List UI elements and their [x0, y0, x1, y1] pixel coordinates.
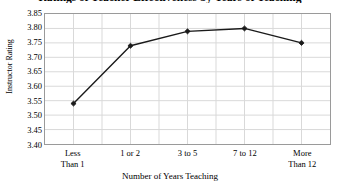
y-axis-tick-label: 3.65 — [14, 67, 42, 76]
chart-title: Ratings of Teacher Effectiveness by Year… — [0, 0, 340, 3]
y-axis-tick-label: 3.80 — [14, 23, 42, 32]
y-axis-tick-label: 3.55 — [14, 97, 42, 106]
data-point-marker — [299, 40, 304, 45]
y-axis-tick-label: 3.75 — [14, 38, 42, 47]
line-chart: Ratings of Teacher Effectiveness by Year… — [0, 0, 340, 187]
x-axis-tick-label: 3 to 5 — [155, 148, 221, 159]
y-axis-tick-label: 3.60 — [14, 82, 42, 91]
y-axis-title: Instructor Rating — [5, 27, 14, 107]
y-axis-tick-label: 3.45 — [14, 126, 42, 135]
y-axis-tick-label: 3.70 — [14, 53, 42, 62]
y-axis-tick-label: 3.40 — [14, 141, 42, 150]
plot-area — [44, 13, 331, 145]
data-point-marker — [185, 29, 190, 34]
x-axis-tick-label: 1 or 2 — [97, 148, 163, 159]
x-axis-tick-label: 7 to 12 — [212, 148, 278, 159]
y-axis-tick-label: 3.85 — [14, 9, 42, 18]
x-axis-tick-label: More Than 12 — [269, 148, 335, 169]
y-axis-tick-label: 3.50 — [14, 111, 42, 120]
x-axis-title: Number of Years Teaching — [0, 171, 340, 182]
x-axis-tick-labels: Less Than 11 or 23 to 57 to 12More Than … — [44, 148, 331, 172]
plot-svg — [45, 14, 330, 144]
data-point-marker — [242, 26, 247, 31]
x-axis-tick-label: Less Than 1 — [40, 148, 106, 169]
y-axis-tick-labels: 3.853.803.753.703.653.603.553.503.453.40 — [14, 13, 42, 145]
